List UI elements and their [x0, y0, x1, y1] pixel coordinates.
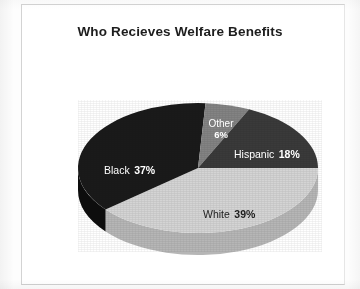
pie-chart: Other 6% Hispanic 18% Black 37% White 39… [78, 100, 322, 252]
chart-title: Who Recieves Welfare Benefits [0, 24, 360, 39]
scanned-page: Who Recieves Welfare Benefits Other 6% H… [0, 0, 360, 289]
pie-top-face [78, 100, 322, 252]
